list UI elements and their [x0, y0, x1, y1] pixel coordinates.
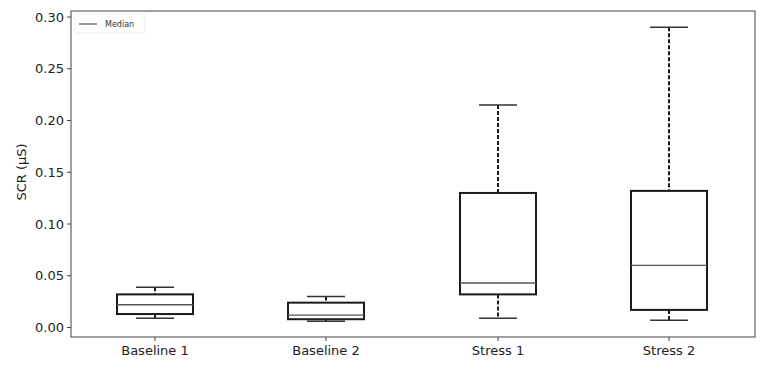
x-tick-label: Stress 1 [472, 343, 524, 358]
y-tick-label: 0.20 [35, 113, 64, 128]
iqr-box [460, 193, 536, 294]
x-tick-label: Baseline 1 [121, 343, 189, 358]
y-tick-label: 0.00 [35, 320, 64, 335]
box-baseline-2 [288, 296, 364, 321]
iqr-box [288, 303, 364, 320]
x-tick-label: Baseline 2 [292, 343, 360, 358]
x-axis: Baseline 1Baseline 2Stress 1Stress 2 [121, 337, 695, 358]
y-tick-label: 0.10 [35, 217, 64, 232]
y-axis: 0.000.050.100.150.200.250.30 [35, 10, 71, 336]
box-stress-1 [460, 105, 536, 318]
x-tick-label: Stress 2 [643, 343, 695, 358]
plot-area [71, 11, 755, 337]
box-stress-2 [631, 27, 707, 320]
y-tick-label: 0.15 [35, 165, 64, 180]
legend-label-median: Median [105, 20, 134, 29]
legend: Median [75, 14, 145, 33]
box-plot-chart: 0.000.050.100.150.200.250.30 Baseline 1B… [0, 0, 767, 391]
box-baseline-1 [117, 287, 193, 318]
y-axis-label: SCR (µS) [14, 143, 29, 200]
y-tick-label: 0.30 [35, 10, 64, 25]
y-tick-label: 0.05 [35, 268, 64, 283]
y-tick-label: 0.25 [35, 61, 64, 76]
iqr-box [631, 191, 707, 310]
